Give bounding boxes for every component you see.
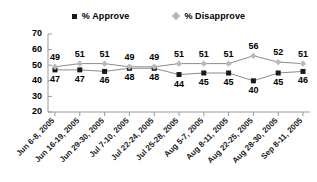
- y-axis-tick-label: 70: [32, 28, 42, 38]
- data-label-approve: 46: [298, 75, 308, 85]
- x-axis-category-label: Jul 22-24, 2005: [109, 116, 156, 163]
- data-label-disapprove: 51: [224, 49, 234, 59]
- data-label-approve: 45: [224, 77, 234, 87]
- data-point-disapprove: [275, 59, 281, 65]
- data-point-approve: [226, 71, 231, 76]
- x-axis-category-label: Jul 25-28, 2005: [134, 116, 181, 163]
- data-label-disapprove: 51: [199, 49, 209, 59]
- data-label-approve: 48: [149, 72, 159, 82]
- data-label-disapprove: 52: [273, 47, 283, 57]
- data-label-approve: 47: [50, 74, 60, 84]
- chart-container: % Approve % Disapprove 20304050607047474…: [0, 0, 317, 182]
- data-label-approve: 46: [100, 75, 110, 85]
- data-label-disapprove: 51: [75, 49, 85, 59]
- data-label-disapprove: 56: [248, 41, 258, 51]
- data-point-disapprove: [77, 60, 83, 66]
- data-label-approve: 47: [75, 74, 85, 84]
- data-point-approve: [301, 69, 306, 74]
- data-point-disapprove: [101, 60, 107, 66]
- data-point-disapprove: [176, 60, 182, 66]
- data-point-approve: [276, 71, 281, 76]
- data-point-approve: [77, 67, 82, 72]
- chart-plot: 2030405060704747464848444545404546495151…: [0, 0, 317, 182]
- data-label-approve: 48: [124, 72, 134, 82]
- data-label-disapprove: 51: [100, 49, 110, 59]
- data-point-disapprove: [225, 60, 231, 66]
- data-point-approve: [102, 69, 107, 74]
- x-axis-category-label: Jun 29-30, 2005: [58, 116, 107, 165]
- data-label-disapprove: 51: [174, 49, 184, 59]
- y-axis-tick-label: 40: [32, 75, 42, 85]
- y-axis-tick-label: 60: [32, 44, 42, 54]
- data-label-approve: 45: [199, 77, 209, 87]
- data-label-approve: 40: [248, 85, 258, 95]
- data-label-disapprove: 51: [298, 49, 308, 59]
- y-axis-tick-label: 20: [32, 106, 42, 116]
- data-label-approve: 45: [273, 77, 283, 87]
- data-point-disapprove: [300, 60, 306, 66]
- data-point-approve: [201, 71, 206, 76]
- data-label-approve: 44: [174, 79, 184, 89]
- data-point-approve: [177, 72, 182, 77]
- data-point-disapprove: [250, 53, 256, 59]
- data-point-disapprove: [201, 60, 207, 66]
- data-label-disapprove: 49: [50, 52, 60, 62]
- x-axis-category-label: Jun 16-19, 2005: [33, 116, 82, 165]
- y-axis-tick-label: 50: [32, 60, 42, 70]
- data-label-disapprove: 49: [124, 52, 134, 62]
- y-axis-tick-label: 30: [32, 91, 42, 101]
- data-point-approve: [251, 78, 256, 83]
- data-label-disapprove: 49: [149, 52, 159, 62]
